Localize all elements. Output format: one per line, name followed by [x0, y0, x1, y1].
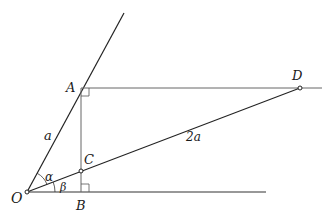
label-a: a — [44, 128, 52, 143]
label-D: D — [291, 68, 303, 83]
label-beta: β — [59, 181, 66, 194]
label-2a: 2a — [185, 130, 201, 144]
label-alpha: α — [45, 170, 53, 184]
label-O: O — [11, 190, 23, 206]
line-OA-ray — [27, 13, 124, 192]
right-angle-B — [81, 184, 89, 192]
label-A: A — [65, 80, 75, 95]
point-C — [79, 169, 83, 173]
label-B: B — [75, 198, 86, 213]
line-OD — [27, 88, 300, 192]
geometry-diagram: O A B C D a 2a α β — [0, 0, 332, 220]
angle-beta-arc — [53, 182, 55, 192]
point-O — [25, 190, 29, 194]
label-C: C — [84, 152, 94, 167]
point-D — [298, 86, 302, 90]
